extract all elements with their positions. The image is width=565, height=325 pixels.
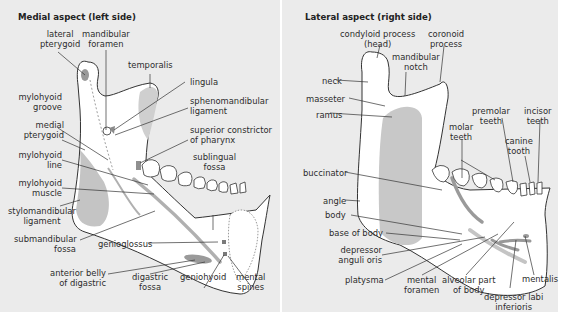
label-line: fossa <box>14 244 76 254</box>
label-line: of pharynx <box>190 135 272 145</box>
label-line: muscle <box>14 188 62 198</box>
label-line: pterygoid <box>40 39 80 49</box>
label-base-of-body: base of body <box>329 228 383 238</box>
label-line: anguli oris <box>320 255 382 265</box>
label-mylohyoid-muscle: mylohyoid muscle <box>14 178 62 198</box>
label-line: groove <box>14 102 62 112</box>
label-line: mylohyoid <box>14 92 62 102</box>
label-line: submandibular <box>14 234 76 244</box>
label-mentalis: mentalis <box>522 274 558 284</box>
label-line: foramen <box>404 285 439 295</box>
label-lingula: lingula <box>190 77 218 87</box>
label-masseter: masseter <box>306 94 345 104</box>
label-mandibular-foramen: mandibular foramen <box>82 29 130 49</box>
label-superior-constrictor: superior constrictor of pharynx <box>190 125 272 145</box>
label-line: alveolar part <box>442 275 495 285</box>
label-geniohyoid: geniohyoid <box>180 272 226 282</box>
label-medial-pterygoid: medial pterygoid <box>14 120 64 140</box>
label-line: medial <box>14 120 64 130</box>
label-line: depressor labi <box>484 292 543 302</box>
label-line: (head) <box>340 39 415 49</box>
label-body: body <box>325 210 346 220</box>
label-line: mylohyoid <box>14 150 62 160</box>
label-premolar-teeth: premolar teeth <box>472 106 510 126</box>
label-line: canine <box>505 136 533 146</box>
label-depressor-labi-inferioris: depressor labi inferioris <box>484 292 543 312</box>
label-angle: angle <box>323 196 346 206</box>
label-line: foramen <box>82 39 130 49</box>
label-sphenomandibular-ligament: sphenomandibular ligament <box>190 96 268 116</box>
label-line: notch <box>392 62 440 72</box>
label-molar-teeth: molar teeth <box>449 122 473 142</box>
label-stylomandibular-ligament: stylomandibular ligament <box>8 206 76 226</box>
label-line: stylomandibular <box>8 206 76 216</box>
label-line: ligament <box>8 216 76 226</box>
label-line: mylohyoid <box>14 178 62 188</box>
label-line: line <box>14 160 62 170</box>
label-line: depressor <box>320 245 382 255</box>
label-mandibular-notch: mandibular notch <box>392 52 440 72</box>
label-mylohyoid-line: mylohyoid line <box>14 150 62 170</box>
label-line: tooth <box>505 146 533 156</box>
label-neck: neck <box>322 76 342 86</box>
medial-aspect-title: Medial aspect (left side) <box>18 12 136 22</box>
label-line: ligament <box>190 106 268 116</box>
label-line: sublingual <box>193 152 236 162</box>
label-line: mandibular <box>392 52 440 62</box>
label-mylohyoid-groove: mylohyoid groove <box>14 92 62 112</box>
label-line: fossa <box>132 282 168 292</box>
label-anterior-belly-digastric: anterior belly of digastric <box>40 268 106 288</box>
label-line: mandibular <box>82 29 130 39</box>
label-line: teeth <box>449 132 473 142</box>
label-line: mental <box>404 275 439 285</box>
label-line: anterior belly <box>40 268 106 278</box>
label-line: fossa <box>193 162 236 172</box>
label-sublingual-fossa: sublingual fossa <box>193 152 236 172</box>
label-temporalis: temporalis <box>128 60 173 70</box>
label-line: teeth <box>472 116 510 126</box>
label-lateral-pterygoid: lateral pterygoid <box>40 29 80 49</box>
label-line: spines <box>236 282 265 292</box>
label-line: incisor <box>524 106 552 116</box>
label-digastric-fossa: digastric fossa <box>132 272 168 292</box>
label-line: of digastric <box>40 278 106 288</box>
label-line: sphenomandibular <box>190 96 268 106</box>
label-line: process <box>428 39 464 49</box>
label-incisor-teeth: incisor teeth <box>524 106 552 126</box>
label-line: premolar <box>472 106 510 116</box>
label-canine-tooth: canine tooth <box>505 136 533 156</box>
label-mental-spines: mental spines <box>236 272 265 292</box>
label-buccinator: buccinator <box>303 168 347 178</box>
label-condyloid-process: condyloid process (head) <box>340 29 415 49</box>
lateral-aspect-title: Lateral aspect (right side) <box>305 12 432 22</box>
label-line: coronoid <box>428 29 464 39</box>
label-coronoid-process: coronoid process <box>428 29 464 49</box>
label-genioglossus: genioglossus <box>98 239 152 249</box>
label-line: digastric <box>132 272 168 282</box>
label-line: condyloid process <box>340 29 415 39</box>
label-submandibular-fossa: submandibular fossa <box>14 234 76 254</box>
label-ramus: ramus <box>316 110 342 120</box>
label-line: teeth <box>524 116 552 126</box>
label-depressor-anguli-oris: depressor anguli oris <box>320 245 382 265</box>
label-line: pterygoid <box>14 130 64 140</box>
label-line: inferioris <box>484 302 543 312</box>
label-line: superior constrictor <box>190 125 272 135</box>
label-mental-foramen: mental foramen <box>404 275 439 295</box>
label-line: mental <box>236 272 265 282</box>
label-platysma: platysma <box>345 275 384 285</box>
lateral-mandible <box>357 52 550 296</box>
label-line: molar <box>449 122 473 132</box>
label-line: lateral <box>40 29 80 39</box>
